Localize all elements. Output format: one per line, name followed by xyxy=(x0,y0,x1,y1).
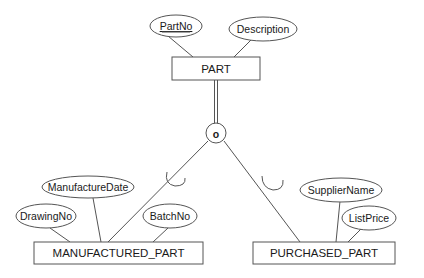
edge-listprice xyxy=(348,229,361,242)
specialization-circle: o xyxy=(206,123,226,143)
edge-suppliername xyxy=(336,201,340,242)
svg-text:PURCHASED_PART: PURCHASED_PART xyxy=(270,247,378,259)
edge-drawingno xyxy=(50,228,70,242)
attribute-listprice: ListPrice xyxy=(342,206,396,230)
edge-description-part xyxy=(234,40,251,57)
entity-part: PART xyxy=(172,57,260,80)
edge-batchno xyxy=(153,228,168,242)
entity-purchased-part: PURCHASED_PART xyxy=(253,242,395,264)
svg-text:ManufactureDate: ManufactureDate xyxy=(48,181,129,193)
attribute-drawingno: DrawingNo xyxy=(16,204,76,228)
attribute-manufacturedate: ManufactureDate xyxy=(42,176,134,198)
svg-text:ListPrice: ListPrice xyxy=(349,212,389,224)
entity-manufactured-part: MANUFACTURED_PART xyxy=(34,242,203,264)
subset-icon-right xyxy=(262,176,283,190)
svg-text:BatchNo: BatchNo xyxy=(150,210,190,222)
svg-text:o: o xyxy=(213,128,219,140)
svg-text:PartNo: PartNo xyxy=(160,20,193,32)
attribute-partno: PartNo xyxy=(150,15,202,37)
attribute-suppliername: SupplierName xyxy=(300,178,382,202)
edge-partno-part xyxy=(168,36,193,57)
edge-manufacturedate xyxy=(93,198,101,242)
er-diagram: PartNo Description PART o ManufactureDat… xyxy=(0,0,424,278)
attribute-batchno: BatchNo xyxy=(143,204,197,228)
svg-text:SupplierName: SupplierName xyxy=(308,184,375,196)
svg-text:DrawingNo: DrawingNo xyxy=(20,210,72,222)
attribute-description: Description xyxy=(229,17,297,41)
svg-text:PART: PART xyxy=(201,63,231,75)
svg-text:MANUFACTURED_PART: MANUFACTURED_PART xyxy=(53,247,185,259)
svg-text:Description: Description xyxy=(237,23,290,35)
edge-spec-purchased xyxy=(224,141,300,242)
